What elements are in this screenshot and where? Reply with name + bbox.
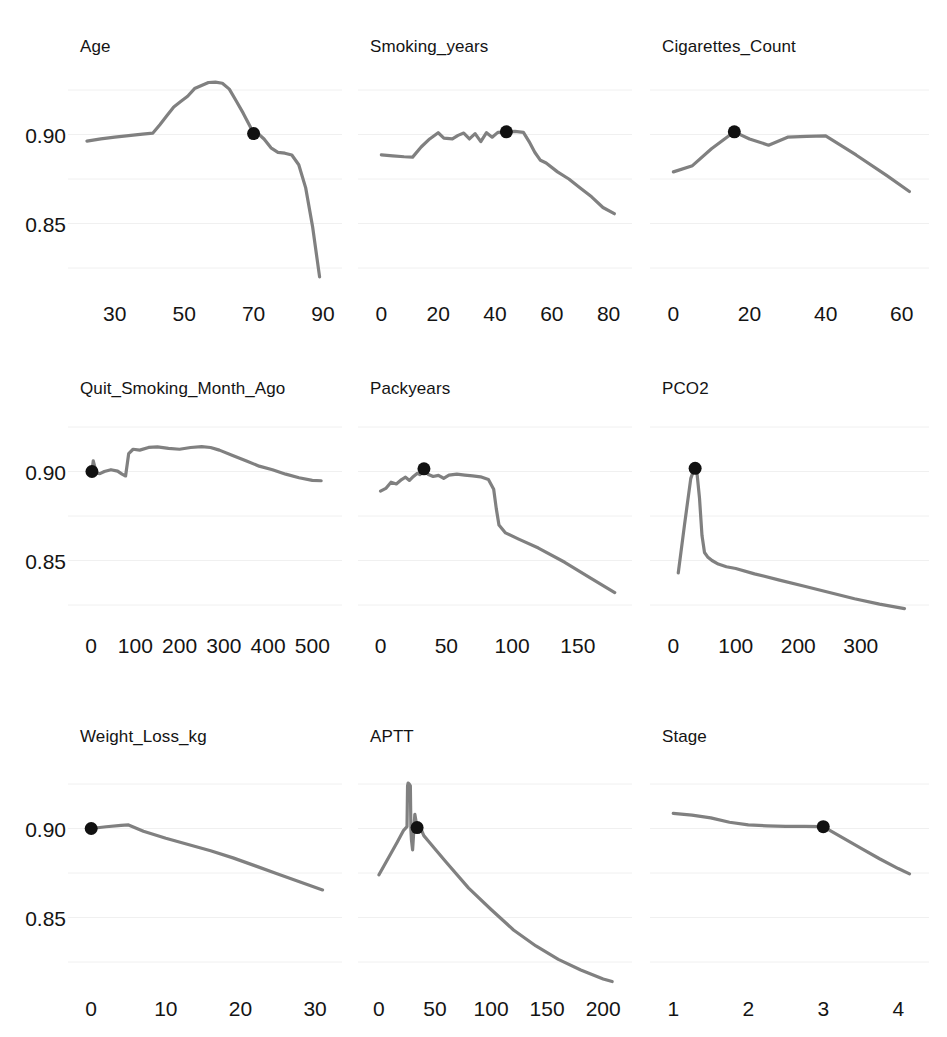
panel-cigarettes-count: Cigarettes_Count0204060 [630, 0, 947, 350]
y-axis-tick-label: 0.90 [25, 462, 66, 483]
x-axis-tick-label: 300 [843, 635, 878, 656]
x-axis-tick-label: 100 [495, 635, 530, 656]
plot-area [630, 0, 947, 350]
gridlines [650, 784, 929, 962]
x-axis-tick-label: 3 [817, 998, 829, 1019]
panel-weight-loss-kg: Weight_Loss_kg0.900.850102030 [0, 680, 340, 1037]
x-axis-tick-label: 70 [242, 303, 265, 324]
x-axis-tick-label: 150 [530, 998, 565, 1019]
pdp-curve [91, 447, 321, 481]
x-axis-tick-label: 10 [154, 998, 177, 1019]
pdp-curve [379, 783, 612, 981]
panel-packyears: Packyears050100150 [340, 350, 630, 680]
optimal-point-marker [247, 127, 260, 140]
plot-area [0, 680, 340, 1037]
optimal-point-marker [85, 822, 98, 835]
x-axis-tick-label: 0 [668, 303, 680, 324]
x-axis-tick-label: 40 [483, 303, 506, 324]
y-axis-tick-label: 0.90 [25, 125, 66, 146]
plot-area [340, 0, 630, 350]
x-axis-tick-label: 50 [172, 303, 195, 324]
x-axis-tick-label: 500 [295, 635, 330, 656]
pdp-curve [381, 131, 614, 213]
x-axis-tick-label: 20 [738, 303, 761, 324]
optimal-point-marker [689, 462, 702, 475]
x-axis-tick-label: 30 [103, 303, 126, 324]
x-axis-tick-label: 2 [742, 998, 754, 1019]
panel-smoking-years: Smoking_years020406080 [340, 0, 630, 350]
gridlines [68, 427, 342, 605]
x-axis-tick-label: 4 [892, 998, 904, 1019]
x-axis-tick-label: 90 [311, 303, 334, 324]
gridlines [650, 90, 929, 268]
x-axis-tick-label: 30 [303, 998, 326, 1019]
y-axis-tick-label: 0.85 [25, 551, 66, 572]
x-axis-tick-label: 200 [162, 635, 197, 656]
x-axis-tick-label: 150 [560, 635, 595, 656]
optimal-point-marker [817, 820, 830, 833]
optimal-point-marker [411, 821, 424, 834]
gridlines [358, 90, 632, 268]
x-axis-tick-label: 100 [474, 998, 509, 1019]
panel-stage: Stage1234 [630, 680, 947, 1037]
optimal-point-marker [728, 125, 741, 138]
optimal-point-marker [85, 465, 98, 478]
plot-area [340, 350, 630, 680]
panel-aptt: APTT050100150200 [340, 680, 630, 1037]
panel-quit-smoking-month-ago: Quit_Smoking_Month_Ago0.900.850100200300… [0, 350, 340, 680]
y-axis-tick-label: 0.90 [25, 819, 66, 840]
optimal-point-marker [417, 462, 430, 475]
x-axis-tick-label: 0 [85, 635, 97, 656]
x-axis-tick-label: 200 [586, 998, 621, 1019]
x-axis-tick-label: 0 [373, 998, 385, 1019]
x-axis-tick-label: 60 [890, 303, 913, 324]
pdp-curve [381, 469, 615, 593]
gridlines [358, 784, 632, 962]
x-axis-tick-label: 50 [423, 998, 446, 1019]
x-axis-tick-label: 0 [667, 635, 679, 656]
x-axis-tick-label: 100 [118, 635, 153, 656]
pdp-curve [87, 82, 320, 277]
plot-area [630, 680, 947, 1037]
y-axis-tick-label: 0.85 [25, 908, 66, 929]
x-axis-tick-label: 20 [426, 303, 449, 324]
x-axis-tick-label: 80 [597, 303, 620, 324]
plot-area [0, 350, 340, 680]
gridlines [68, 784, 342, 962]
plot-area [0, 0, 340, 350]
pdp-curve [673, 132, 909, 192]
gridlines [650, 427, 929, 605]
x-axis-tick-label: 40 [814, 303, 837, 324]
x-axis-tick-label: 400 [251, 635, 286, 656]
x-axis-tick-label: 0 [375, 635, 387, 656]
plot-area [630, 350, 947, 680]
panel-pco2: PCO20100200300 [630, 350, 947, 680]
panel-age: Age0.900.8530507090 [0, 0, 340, 350]
x-axis-tick-label: 50 [435, 635, 458, 656]
x-axis-tick-label: 20 [229, 998, 252, 1019]
optimal-point-marker [500, 125, 513, 138]
x-axis-tick-label: 200 [781, 635, 816, 656]
x-axis-tick-label: 1 [667, 998, 679, 1019]
plot-area [340, 680, 630, 1037]
x-axis-tick-label: 300 [206, 635, 241, 656]
gridlines [68, 90, 342, 268]
x-axis-tick-label: 0 [85, 998, 97, 1019]
pdp-curve [678, 468, 904, 608]
x-axis-tick-label: 0 [376, 303, 388, 324]
pdp-curve [91, 825, 322, 890]
y-axis-tick-label: 0.85 [25, 214, 66, 235]
x-axis-tick-label: 100 [718, 635, 753, 656]
x-axis-tick-label: 60 [540, 303, 563, 324]
pdp-curve [673, 813, 909, 874]
partial-dependence-grid: Age0.900.8530507090Smoking_years02040608… [0, 0, 947, 1037]
